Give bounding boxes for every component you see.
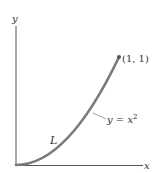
equation-label: y = x2 [106,113,138,125]
endpoint-dot [117,55,121,59]
x-axis-label: x [144,160,150,171]
endpoint-label: (1, 1) [122,53,149,64]
y-axis-label: y [11,13,18,24]
equation-leader-line [93,113,106,119]
path-label: L [49,134,57,147]
parabola-curve [16,57,119,165]
diagram-canvas: y x (1, 1) L y = x2 [0,0,158,173]
